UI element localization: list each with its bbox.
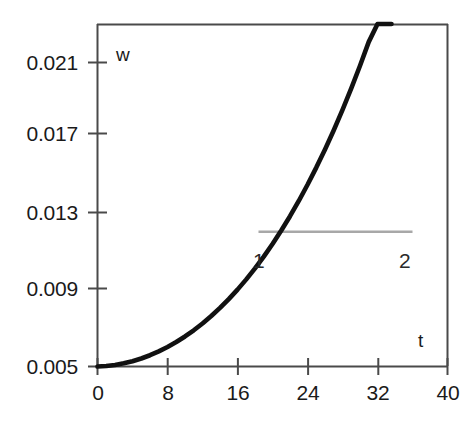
y-tick-label-0.021: 0.021: [6, 51, 78, 75]
y-tick-label-0.013: 0.013: [6, 201, 78, 225]
x-tick-label-32: 32: [358, 381, 398, 405]
series-annotation-1: 1: [253, 249, 265, 273]
chart-figure: 0.021 0.017 0.013 0.009 0.005 0 8 16 24 …: [0, 0, 474, 424]
y-tick-label-0.005: 0.005: [6, 355, 78, 379]
y-tick-label-0.017: 0.017: [6, 122, 78, 146]
series-annotation-2: 2: [399, 249, 411, 273]
x-tick-label-16: 16: [218, 381, 258, 405]
x-tick-label-24: 24: [288, 381, 328, 405]
x-tick-label-0: 0: [78, 381, 118, 405]
series-line-1: [98, 24, 392, 367]
x-tick-label-8: 8: [148, 381, 188, 405]
y-tick-label-0.009: 0.009: [6, 277, 78, 301]
x-axis-label: t: [418, 330, 423, 352]
y-axis-label: w: [116, 44, 130, 66]
x-tick-label-40: 40: [428, 381, 468, 405]
